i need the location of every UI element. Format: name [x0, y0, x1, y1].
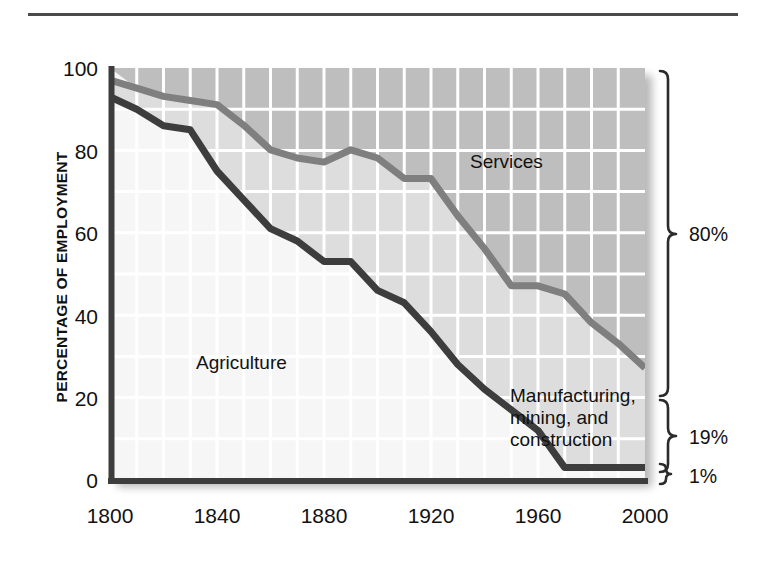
right-brackets: [660, 71, 676, 484]
chart-figure: PERCENTAGE OF EMPLOYMENT 100 80 60 40 20…: [0, 0, 766, 567]
bracket-19: [660, 400, 676, 472]
bracket-label-19: 19%: [689, 428, 728, 448]
annotation-manufacturing-line-3: construction: [510, 429, 636, 451]
annotation-services: Services: [470, 151, 543, 172]
annotation-manufacturing: Manufacturing, mining, and construction: [510, 385, 636, 451]
annotation-manufacturing-line-2: mining, and: [510, 407, 636, 429]
bracket-label-80: 80%: [689, 225, 728, 245]
bracket-label-1: 1%: [689, 467, 717, 487]
annotation-agriculture: Agriculture: [196, 352, 287, 373]
plot-area: [0, 0, 766, 567]
bracket-80: [660, 71, 676, 396]
bracket-1: [660, 464, 671, 484]
annotation-manufacturing-line-1: Manufacturing,: [510, 385, 636, 407]
